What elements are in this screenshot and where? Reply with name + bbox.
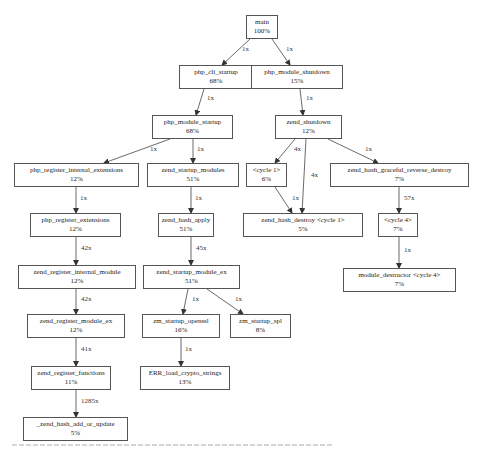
call-graph: main100%php_cli_startup68%php_module_shu…	[0, 0, 478, 450]
node-function-name: php_module_shutdown	[252, 68, 342, 77]
edge-call-count-label: 4x	[311, 171, 318, 179]
edge-call-count-label: 4x	[294, 145, 301, 153]
node-function-name: _zend_hash_add_or_update	[24, 420, 127, 429]
node-percentage: 5%	[244, 225, 362, 234]
node-function-name: main	[247, 18, 277, 27]
edge-call-count-label: 1x	[292, 194, 299, 202]
edge-call-count-label: 1x	[365, 145, 372, 153]
node-zm-startup-openssl[interactable]: zm_startup_openssl16%	[142, 314, 220, 338]
node-percentage: 16%	[143, 326, 219, 335]
edge-call-count-label: 42x	[81, 295, 92, 303]
node-zend-startup-modules[interactable]: zend_startup_modules51%	[147, 163, 239, 187]
node-php-module-shutdown[interactable]: php_module_shutdown15%	[251, 65, 343, 89]
edge-call-count-label: 1285x	[81, 397, 99, 405]
edge-php_cli_startup-to-php_module_startup	[196, 89, 204, 115]
node-percentage: 100%	[247, 27, 277, 36]
node-percentage: 51%	[148, 175, 238, 184]
edge-call-count-label: 1x	[185, 345, 192, 353]
node-cycle4[interactable]: <cycle 4>7%	[378, 213, 418, 237]
node-zend-hash-apply[interactable]: zend_hash_apply51%	[158, 213, 214, 237]
node-function-name: zend_shutdown	[276, 118, 341, 127]
edge-php_module_startup-to-php_register_internal_extensions	[104, 139, 170, 163]
node-percentage: 7%	[331, 175, 468, 184]
node-cycle1[interactable]: <cycle 1>6%	[246, 163, 287, 187]
node-zend-shutdown[interactable]: zend_shutdown12%	[275, 115, 342, 139]
edge-call-count-label: 1x	[306, 94, 313, 102]
node-function-name: php_register_extensions	[31, 216, 120, 225]
node-php-cli-startup[interactable]: php_cli_startup68%	[179, 65, 253, 89]
edge-call-count-label: 1x	[207, 94, 214, 102]
edge-call-count-label: 41x	[81, 345, 92, 353]
edge-zend_startup_module_ex-to-zm_startup_openssl	[183, 289, 188, 314]
edge-call-count-label: 1x	[404, 246, 411, 254]
node-percentage: 15%	[252, 77, 342, 86]
node-zm-startup-spl[interactable]: zm_startup_spl8%	[230, 314, 291, 338]
edge-zend_shutdown-to-cycle1	[275, 139, 295, 163]
node-zend-register-internal-module[interactable]: zend_register_internal_module12%	[18, 265, 136, 289]
node-function-name: zm_startup_openssl	[143, 317, 219, 326]
node-function-name: zend_startup_modules	[148, 166, 238, 175]
edge-zend_shutdown-to-zend_hash_destroy	[302, 139, 306, 213]
node-function-name: php_module_startup	[153, 118, 232, 127]
node-percentage: 12%	[28, 326, 124, 335]
node-php-register-internal-extensions[interactable]: php_register_internal_extensions12%	[14, 163, 139, 187]
node-zend-hash-graceful-reverse-destroy[interactable]: zend_hash_graceful_reverse_destroy7%	[330, 163, 469, 187]
node-percentage: 51%	[144, 277, 239, 286]
node-function-name: zend_hash_graceful_reverse_destroy	[331, 166, 468, 175]
node-module-destructor[interactable]: module_destructor <cycle 4>7%	[343, 268, 456, 292]
edge-call-count-label: 1x	[286, 45, 293, 53]
edge-call-count-label: 1x	[195, 194, 202, 202]
node-function-name: <cycle 1>	[247, 166, 286, 175]
edge-call-count-label: 1x	[80, 194, 87, 202]
node-percentage: 12%	[276, 127, 341, 136]
node-function-name: ERR_load_crypto_strings	[141, 369, 229, 378]
node-function-name: zend_register_functions	[32, 369, 110, 378]
truncated-footer-text	[12, 444, 332, 446]
node-zend-hash-destroy[interactable]: zend_hash_destroy <cycle 1>5%	[243, 213, 363, 237]
edge-call-count-label: 1x	[242, 45, 249, 53]
node-function-name: zm_startup_spl	[231, 317, 290, 326]
node-function-name: php_register_internal_extensions	[15, 166, 138, 175]
node-function-name: php_cli_startup	[180, 68, 252, 77]
edge-cycle1-to-zend_hash_destroy	[275, 187, 292, 213]
node-zend-startup-module-ex[interactable]: zend_startup_module_ex51%	[143, 265, 240, 289]
node-err-load-crypto-strings[interactable]: ERR_load_crypto_strings13%	[140, 366, 230, 390]
edge-call-count-label: 1x	[235, 295, 242, 303]
node-percentage: 8%	[231, 326, 290, 335]
node-function-name: zend_register_module_ex	[28, 317, 124, 326]
node-php-register-extensions[interactable]: php_register_extensions12%	[30, 213, 121, 237]
node--zend-hash-add-or-update[interactable]: _zend_hash_add_or_update5%	[23, 417, 128, 441]
node-php-module-startup[interactable]: php_module_startup68%	[152, 115, 233, 139]
node-zend-register-module-ex[interactable]: zend_register_module_ex12%	[27, 314, 125, 338]
node-percentage: 12%	[31, 225, 120, 234]
edge-call-count-label: 1x	[197, 145, 204, 153]
node-percentage: 12%	[15, 175, 138, 184]
edge-call-count-label: 1x	[150, 145, 157, 153]
node-percentage: 12%	[19, 277, 135, 286]
edge-php_module_shutdown-to-zend_shutdown	[300, 89, 303, 115]
node-function-name: zend_register_internal_module	[19, 268, 135, 277]
node-function-name: zend_hash_apply	[159, 216, 213, 225]
node-percentage: 11%	[32, 378, 110, 387]
node-zend-register-functions[interactable]: zend_register_functions11%	[31, 366, 111, 390]
node-function-name: module_destructor <cycle 4>	[344, 271, 455, 280]
node-function-name: <cycle 4>	[379, 216, 417, 225]
node-percentage: 68%	[180, 77, 252, 86]
node-percentage: 6%	[247, 175, 286, 184]
node-percentage: 13%	[141, 378, 229, 387]
node-function-name: zend_hash_destroy <cycle 1>	[244, 216, 362, 225]
node-percentage: 5%	[24, 429, 127, 438]
node-percentage: 7%	[379, 225, 417, 234]
edge-call-count-label: 45x	[196, 244, 207, 252]
node-main[interactable]: main100%	[246, 15, 278, 39]
node-percentage: 68%	[153, 127, 232, 136]
node-percentage: 51%	[159, 225, 213, 234]
node-function-name: zend_startup_module_ex	[144, 268, 239, 277]
edge-call-count-label: 1x	[192, 295, 199, 303]
node-percentage: 7%	[344, 280, 455, 289]
edge-call-count-label: 57x	[404, 194, 415, 202]
edge-call-count-label: 42x	[81, 244, 92, 252]
